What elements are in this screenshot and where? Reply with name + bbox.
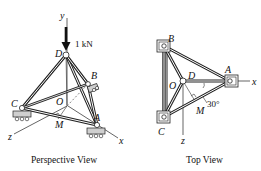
joint-c: [19, 105, 24, 110]
top-label-a: A: [224, 64, 232, 75]
top-joint-c: [162, 115, 166, 119]
label-c: C: [11, 98, 18, 109]
label-b: B: [91, 70, 97, 81]
y-axis-label: y: [59, 10, 65, 21]
joint-a: [94, 122, 99, 127]
top-joint-b: [162, 44, 166, 48]
top-dm-line: [183, 81, 195, 101]
label-a: A: [93, 112, 101, 123]
perspective-view-caption: Perspective View: [31, 155, 97, 165]
top-label-c: C: [158, 126, 165, 137]
support-a: [87, 128, 105, 138]
joint-b: [86, 82, 91, 87]
top-label-o: O: [169, 80, 176, 91]
angle-arc: [203, 83, 204, 88]
z-axis-label: z: [7, 131, 12, 142]
top-label-m: M: [195, 105, 205, 116]
x-axis-label: x: [118, 135, 124, 146]
label-d: D: [54, 48, 63, 59]
load-label: 1 kN: [75, 39, 93, 49]
top-label-d: D: [187, 70, 196, 81]
support-c: [13, 111, 31, 121]
angle-label: 30°: [207, 99, 220, 109]
top-view-caption: Top View: [186, 155, 223, 165]
perspective-view: y 1 kN D B C O M A z x Perspective View: [7, 10, 124, 165]
label-o: O: [56, 96, 63, 107]
truss-diagram: y 1 kN D B C O M A z x Perspective View: [0, 0, 261, 171]
top-joint-d: [180, 78, 186, 84]
load-arrow-icon: [62, 27, 71, 51]
top-joint-a: [228, 79, 232, 83]
joint-d: [63, 52, 69, 58]
top-z-axis-label: z: [180, 135, 185, 146]
top-view: B A x O D 30° M C z Top View: [157, 33, 257, 165]
label-m: M: [54, 119, 64, 130]
top-label-b: B: [168, 33, 174, 44]
top-right-angle-marker: [191, 94, 196, 97]
top-x-axis-label: x: [251, 76, 257, 87]
